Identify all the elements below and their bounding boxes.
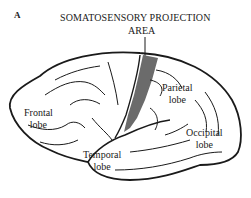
occipital-lobe-label: Occipital lobe <box>186 128 223 150</box>
temporal-lobe-label: Temporal lobe <box>83 150 121 172</box>
brain-diagram <box>0 0 251 198</box>
frontal-lobe-label: Frontal lobe <box>24 108 53 130</box>
somatosensory-area-shading <box>124 55 158 132</box>
parietal-lobe-label: Parietal lobe <box>162 83 193 105</box>
